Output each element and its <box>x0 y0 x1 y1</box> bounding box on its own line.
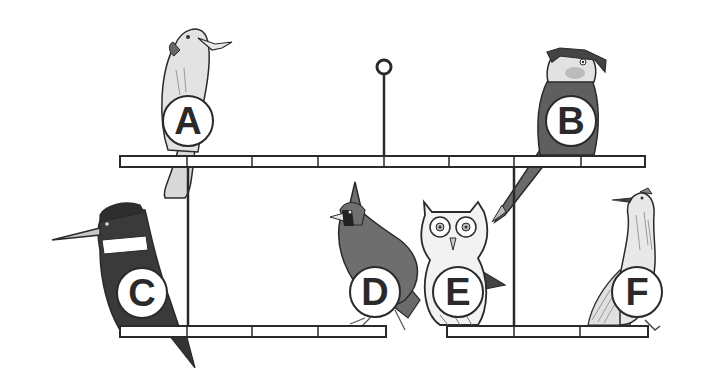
label-c: C <box>116 267 168 319</box>
top-perch-bar <box>120 156 645 167</box>
hanger <box>377 60 391 157</box>
label-f: F <box>611 266 663 318</box>
label-d: D <box>349 266 401 318</box>
label-b: B <box>545 95 597 147</box>
hanger-ring <box>377 60 391 74</box>
bottom-right-perch-bar <box>447 326 648 337</box>
diagram-canvas <box>0 0 708 387</box>
bottom-left-perch-bar <box>120 326 386 337</box>
label-a: A <box>162 95 214 147</box>
bird-mobile-diagram: A B C D E F <box>0 0 708 387</box>
label-e: E <box>432 266 484 318</box>
